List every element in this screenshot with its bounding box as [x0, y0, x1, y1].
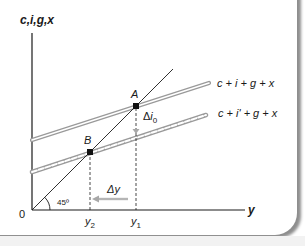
- angle-label: 45º: [57, 198, 69, 207]
- delta-y-arrow: [92, 196, 128, 203]
- lower-line-label: c + i' + g + x: [218, 107, 278, 119]
- delta-i-arrow: [133, 129, 140, 134]
- delta-i-label: Δi0: [143, 110, 158, 125]
- frame-bottom-strip: [0, 236, 305, 246]
- y-axis-label: c,i,g,x: [20, 13, 55, 27]
- x-axis-label: y: [247, 203, 256, 217]
- angle-arc: [45, 197, 50, 210]
- point-a-label: A: [130, 88, 138, 100]
- upper-demand-line: [32, 83, 209, 140]
- y1-tick-label: y1: [130, 215, 142, 230]
- origin-label: 0: [19, 208, 25, 220]
- point-b-marker: [87, 149, 93, 155]
- delta-y-label: Δy: [106, 183, 121, 195]
- point-a-marker: [133, 103, 139, 109]
- keynesian-cross-diagram: c,i,g,x y 0 45º A B c + i + g + x c + i'…: [0, 0, 305, 246]
- forty-five-degree-line: [32, 69, 173, 210]
- point-b-label: B: [84, 134, 91, 146]
- y2-tick-label: y2: [84, 215, 96, 230]
- upper-line-label: c + i + g + x: [217, 77, 275, 89]
